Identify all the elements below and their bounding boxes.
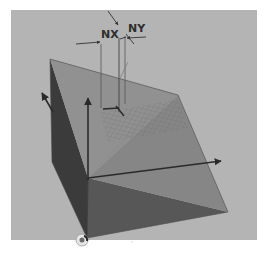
nx-label: NX — [101, 28, 119, 41]
origin-marker-icon — [76, 234, 88, 246]
inclined-plane-diagram: NX NY — [0, 0, 265, 256]
normal-base — [103, 108, 119, 109]
speck — [131, 241, 133, 243]
ny-label: NY — [128, 22, 146, 35]
